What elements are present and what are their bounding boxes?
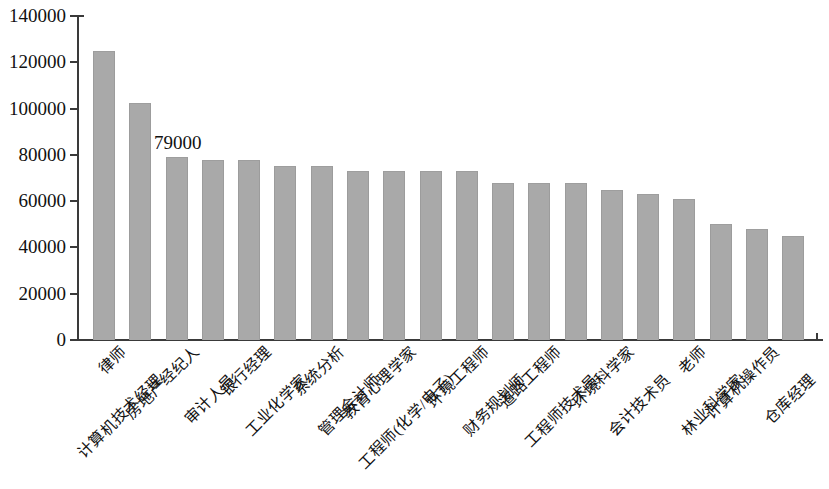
- x-axis-tick-label-text: 老师: [675, 343, 709, 377]
- y-axis-tick: [70, 61, 78, 63]
- bar: [456, 171, 478, 340]
- bar: [274, 166, 296, 340]
- x-axis-tick-labels: 律师计算机技术经理房地产经纪人审计人员银行经理工业化学家系统分析管理会计师教育心…: [0, 341, 829, 489]
- y-axis-tick-label: 60000: [0, 191, 66, 210]
- bar: [129, 103, 151, 340]
- x-axis-tick-label-text: 道路工程师: [496, 343, 564, 411]
- bar: [492, 183, 514, 340]
- bar-value-label: 79000: [154, 133, 202, 152]
- x-axis-tick-label-text: 环境工程师: [424, 343, 492, 411]
- bar: [637, 194, 659, 340]
- y-axis-tick: [70, 293, 78, 295]
- y-axis-tick-label: 20000: [0, 284, 66, 303]
- bar: [347, 171, 369, 340]
- bar: [420, 171, 442, 340]
- y-axis-tick-label: 120000: [0, 52, 66, 71]
- x-axis-tick-label-text: 环境科学家: [569, 343, 637, 411]
- bar: [746, 229, 768, 340]
- x-axis-tick-label-text: 律师: [95, 343, 129, 377]
- y-axis-tick: [70, 15, 78, 17]
- y-axis-tick: [70, 246, 78, 248]
- bar: [782, 236, 804, 340]
- bar: [528, 183, 550, 340]
- y-axis-tick: [70, 154, 78, 156]
- bar: [202, 160, 224, 341]
- y-axis-tick: [70, 108, 78, 110]
- bar: [565, 183, 587, 340]
- bar: [238, 160, 260, 341]
- y-axis-tick-label: 80000: [0, 145, 66, 164]
- y-axis-tick-label: 40000: [0, 237, 66, 256]
- bar-chart: 020000400006000080000100000120000140000 …: [0, 0, 829, 489]
- y-axis-tick-label: 100000: [0, 99, 66, 118]
- bar-series: [78, 16, 823, 340]
- bar: [93, 51, 115, 340]
- bar: [166, 157, 188, 340]
- bar: [601, 190, 623, 340]
- y-axis-tick-label: 140000: [0, 6, 66, 25]
- bar: [383, 171, 405, 340]
- y-axis-tick: [70, 200, 78, 202]
- bar: [673, 199, 695, 340]
- x-axis-tick-label-text: 仓库经理: [762, 371, 819, 428]
- bar: [311, 166, 333, 340]
- bar: [710, 224, 732, 340]
